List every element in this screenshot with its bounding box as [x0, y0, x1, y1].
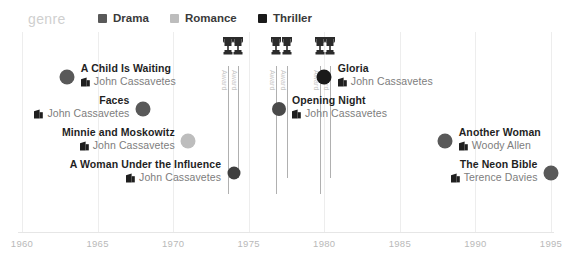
film-entry[interactable]: The Neon Bible Terence Davies [291, 158, 572, 188]
legend-item-label: Drama [113, 12, 149, 24]
film-entry[interactable]: Opening Night John Cassavetes [19, 94, 539, 124]
trophy-icon [323, 36, 337, 58]
film-director: John Cassavetes [0, 139, 175, 152]
film-title: Another Woman [459, 126, 572, 139]
legend-item-label: Romance [185, 12, 237, 24]
axis-tick-label: 1975 [238, 238, 260, 249]
camera-icon [80, 141, 89, 151]
timeline-chart: genre Drama Romance Thriller Award Award… [0, 0, 572, 266]
legend-title: genre [28, 11, 66, 27]
axis-tick-label: 1960 [11, 238, 33, 249]
square-swatch-icon [98, 14, 107, 23]
film-label: The Neon Bible Terence Davies [278, 158, 538, 184]
film-dot[interactable] [438, 134, 453, 149]
plot-area: Award Award Award Award Award AwardA Chi… [0, 32, 572, 232]
axis-tick-label: 1965 [86, 238, 108, 249]
director-name: John Cassavetes [139, 171, 221, 184]
camera-icon [451, 173, 460, 183]
film-label: A Woman Under the Influence John Cassave… [0, 158, 221, 184]
legend-item-label: Thriller [273, 12, 312, 24]
axis-tick-label: 1980 [313, 238, 335, 249]
x-axis: 19601965197019751980198519901995 [0, 232, 572, 266]
film-dot[interactable] [544, 166, 559, 181]
film-director: John Cassavetes [338, 75, 572, 88]
film-label: Opening Night John Cassavetes [292, 94, 552, 120]
director-name: John Cassavetes [93, 139, 175, 152]
axis-rule [18, 232, 554, 233]
film-director: Woody Allen [459, 139, 572, 152]
trophy-icon [231, 36, 245, 58]
film-title: A Woman Under the Influence [0, 158, 221, 171]
legend: genre Drama Romance Thriller [0, 8, 572, 32]
camera-icon [338, 77, 347, 87]
axis-tick-label: 1990 [464, 238, 486, 249]
film-label: Gloria John Cassavetes [338, 62, 572, 88]
camera-icon [126, 173, 135, 183]
film-title: The Neon Bible [278, 158, 538, 171]
director-name: John Cassavetes [305, 107, 387, 120]
legend-item-drama[interactable]: Drama [98, 12, 149, 24]
trophy-icon [280, 36, 294, 58]
film-director: John Cassavetes [292, 107, 552, 120]
film-director: Terence Davies [278, 171, 538, 184]
axis-tick-label: 1985 [389, 238, 411, 249]
film-label: Another Woman Woody Allen [459, 126, 572, 152]
film-dot[interactable] [272, 102, 286, 116]
axis-tick-label: 1995 [540, 238, 562, 249]
director-name: John Cassavetes [351, 75, 433, 88]
camera-icon [292, 109, 301, 119]
film-title: Minnie and Moskowitz [0, 126, 175, 139]
film-director: John Cassavetes [0, 171, 221, 184]
director-name: Terence Davies [464, 171, 538, 184]
film-dot[interactable] [227, 167, 240, 180]
legend-item-thriller[interactable]: Thriller [258, 12, 312, 24]
legend-item-romance[interactable]: Romance [170, 12, 237, 24]
film-title: Gloria [338, 62, 572, 75]
film-dot[interactable] [317, 70, 332, 85]
axis-tick-label: 1970 [162, 238, 184, 249]
film-title: Opening Night [292, 94, 552, 107]
film-entry[interactable]: Another Woman Woody Allen [185, 126, 572, 156]
square-swatch-icon [258, 14, 267, 23]
camera-icon [459, 141, 468, 151]
director-name: Woody Allen [472, 139, 531, 152]
film-label: Minnie and Moskowitz John Cassavetes [0, 126, 175, 152]
square-swatch-icon [170, 14, 179, 23]
film-entry[interactable]: Gloria John Cassavetes [64, 62, 572, 92]
